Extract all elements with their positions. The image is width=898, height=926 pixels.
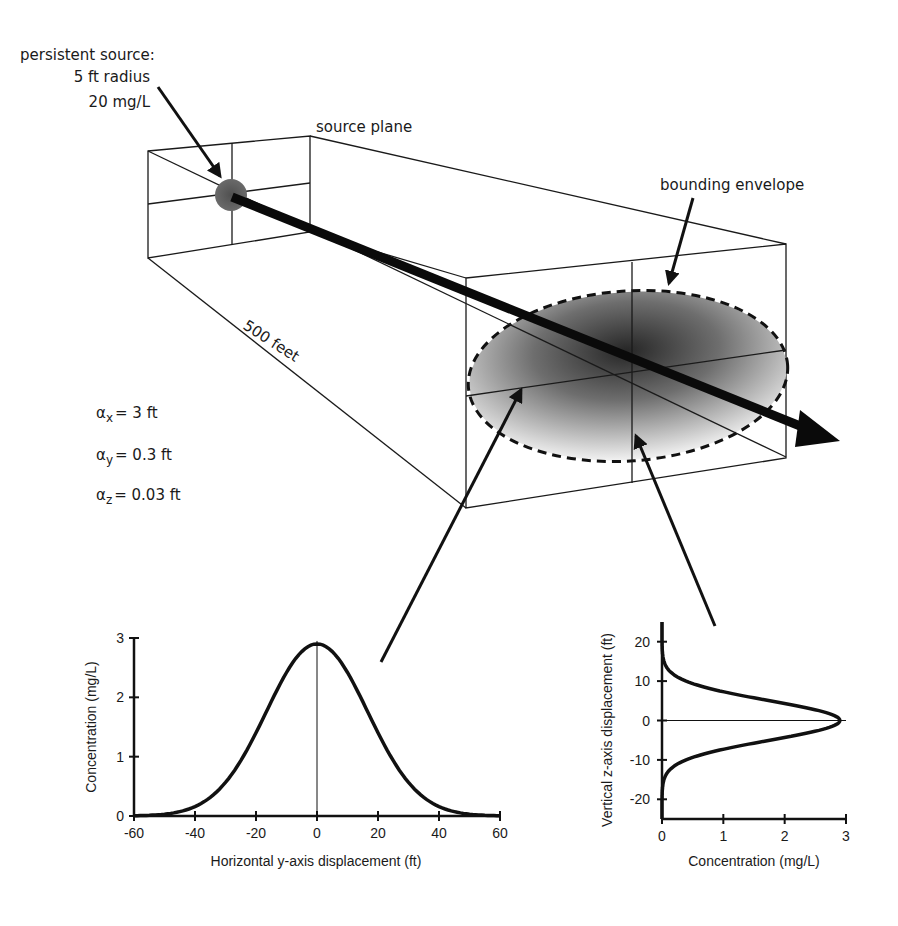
horizontal-chart-ylabel: Concentration (mg/L) — [83, 661, 99, 793]
y-tick-label: 20 — [634, 634, 650, 650]
source-title-label: persistent source: — [20, 46, 155, 64]
x-tick-label: 0 — [658, 828, 666, 844]
y-tick-label: 0 — [116, 808, 124, 824]
alpha-y-label: αy= 0.3 ft — [96, 446, 172, 467]
x-tick-label: 0 — [313, 825, 321, 841]
x-tick-label: -40 — [185, 825, 205, 841]
x-tick-label: 2 — [781, 828, 789, 844]
horizontal-chart-xlabel: Horizontal y-axis displacement (ft) — [211, 853, 422, 869]
source-concentration-label: 20 mg/L — [89, 93, 151, 111]
y-tick-label: 1 — [116, 749, 124, 765]
y-tick-label: 3 — [116, 630, 124, 646]
source-callout-arrow — [158, 87, 220, 176]
envelope-callout-arrow — [669, 198, 693, 283]
x-tick-label: -20 — [246, 825, 266, 841]
horizontal-profile-callout-arrow — [381, 390, 521, 662]
vertical-chart-ylabel: Vertical z-axis displacement (ft) — [599, 633, 615, 827]
flow-arrow-head-icon — [795, 410, 840, 447]
x-tick-label: 40 — [431, 825, 447, 841]
x-tick-label: 20 — [370, 825, 386, 841]
plume-diagram: persistent source: 5 ft radius 20 mg/L s… — [0, 0, 898, 926]
y-tick-label: 0 — [642, 713, 650, 729]
alpha-z-label: αz= 0.03 ft — [96, 486, 181, 507]
vertical-chart-xlabel: Concentration (mg/L) — [688, 853, 820, 869]
source-plane-label: source plane — [316, 118, 412, 136]
box-bottom-edge — [148, 258, 466, 508]
persistent-source-disk — [215, 179, 247, 211]
y-tick-label: -20 — [630, 791, 650, 807]
dispersivity-list: αx= 3 ft αy= 0.3 ft αz= 0.03 ft — [96, 404, 181, 507]
bounding-envelope-label: bounding envelope — [660, 176, 804, 194]
vertical-profile-chart: -20-10010200123 Concentration (mg/L) Ver… — [599, 622, 850, 869]
x-tick-label: 1 — [719, 828, 727, 844]
horizontal-profile-chart: 0123-60-40-200204060 Horizontal y-axis d… — [83, 630, 508, 869]
source-radius-label: 5 ft radius — [74, 68, 151, 86]
y-tick-label: 2 — [116, 689, 124, 705]
y-tick-label: -10 — [630, 752, 650, 768]
y-tick-label: 10 — [634, 673, 650, 689]
vertical-profile-callout-arrow — [636, 436, 715, 626]
x-tick-label: -60 — [124, 825, 144, 841]
distance-label: 500 feet — [240, 316, 303, 365]
x-tick-label: 3 — [842, 828, 850, 844]
x-tick-label: 60 — [492, 825, 508, 841]
alpha-x-label: αx= 3 ft — [96, 404, 158, 425]
